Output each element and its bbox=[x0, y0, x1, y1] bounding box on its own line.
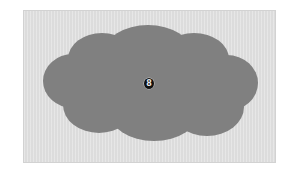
circled-eight-icon: 8 bbox=[144, 78, 154, 89]
diagram-panel: 8 bbox=[23, 10, 276, 163]
figure-canvas: 8 bbox=[0, 0, 297, 179]
